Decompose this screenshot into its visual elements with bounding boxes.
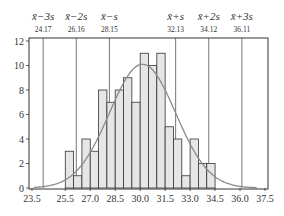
reference-value: 28.15 — [101, 25, 118, 34]
histogram-bar — [90, 151, 98, 188]
x-tick-label: 31.5 — [156, 193, 174, 204]
reference-value: 24.17 — [35, 25, 52, 34]
y-tick-label: 6 — [19, 109, 24, 120]
histogram-bar — [74, 176, 82, 188]
y-tick-label: 4 — [19, 134, 24, 145]
histogram-bars — [65, 53, 215, 188]
histogram-bar — [132, 102, 140, 188]
reference-labels: x̄−3s24.17x̄−2s26.16x̄−s28.15x̄+s32.13x̄… — [31, 10, 253, 34]
x-tick-label: 33.0 — [181, 193, 199, 204]
histogram-bar — [124, 78, 132, 188]
histogram-bar — [140, 53, 148, 188]
x-tick-label: 28.5 — [106, 193, 124, 204]
histogram-bar — [99, 90, 107, 188]
histogram-bar — [157, 53, 165, 188]
histogram-chart: 23.525.527.028.530.031.533.034.536.037.5… — [0, 0, 284, 216]
histogram-bar — [173, 139, 181, 188]
reference-value: 34.12 — [200, 25, 217, 34]
reference-value: 32.13 — [167, 25, 184, 34]
y-tick-label: 2 — [19, 158, 24, 169]
x-tick-label: 34.5 — [206, 193, 224, 204]
x-tick-label: 36.0 — [231, 193, 249, 204]
x-axis: 23.525.527.028.530.031.533.034.536.037.5 — [23, 188, 274, 204]
histogram-bar — [65, 151, 73, 188]
x-tick-label: 37.5 — [256, 193, 274, 204]
y-tick-label: 10 — [14, 60, 24, 71]
reference-value: 36.11 — [234, 25, 251, 34]
x-tick-label: 23.5 — [23, 193, 41, 204]
histogram-bar — [149, 66, 157, 189]
x-tick-label: 25.5 — [57, 193, 75, 204]
y-tick-label: 0 — [19, 183, 24, 194]
x-tick-label: 27.0 — [82, 193, 100, 204]
y-tick-label: 8 — [19, 85, 24, 96]
reference-label: x̄−s — [100, 10, 118, 22]
y-tick-label: 12 — [14, 36, 24, 47]
reference-label: x̄+s — [166, 10, 184, 22]
histogram-bar — [115, 90, 123, 188]
histogram-bar — [165, 127, 173, 188]
reference-label: x̄−2s — [64, 10, 87, 22]
reference-label: x̄+3s — [230, 10, 253, 22]
reference-label: x̄+2s — [197, 10, 220, 22]
y-axis: 024681012 — [14, 36, 29, 194]
reference-value: 26.16 — [68, 25, 85, 34]
reference-label: x̄−3s — [31, 10, 54, 22]
histogram-bar — [182, 176, 190, 188]
x-tick-label: 30.0 — [131, 193, 149, 204]
